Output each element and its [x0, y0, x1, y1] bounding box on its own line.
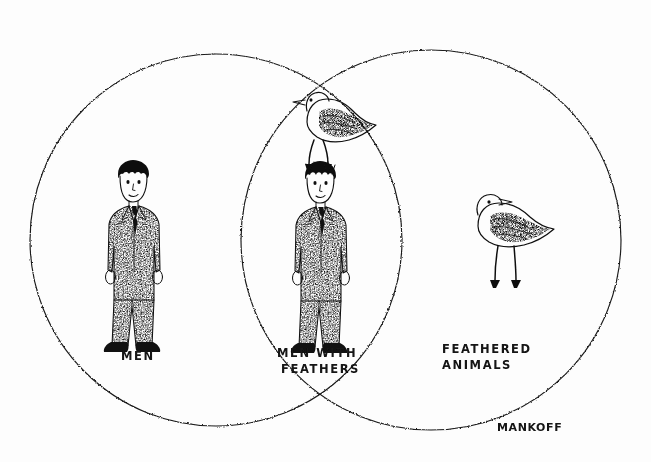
label-men: MEN [121, 349, 155, 363]
label-men-with-feathers-line2: FEATHERS [281, 362, 360, 376]
labels-group: MEN MEN WITH FEATHERS FEATHERED ANIMALS [121, 342, 532, 376]
artist-signature-group: MANKOFF [497, 421, 562, 434]
label-men-with-feathers-line1: MEN WITH [277, 346, 357, 360]
suit-jacket [108, 206, 160, 300]
bird-shorebird [477, 195, 554, 288]
trousers [112, 300, 154, 346]
trousers [299, 301, 341, 347]
cartoon-canvas: MEN MEN WITH FEATHERS FEATHERED ANIMALS … [0, 0, 651, 462]
label-feathered-animals-line1: FEATHERED [442, 342, 532, 356]
bird-on-head [293, 92, 376, 170]
venn-diagram-illustration: MEN MEN WITH FEATHERS FEATHERED ANIMALS … [0, 0, 651, 462]
suit-jacket [295, 207, 347, 301]
figure-man-with-bird [291, 161, 350, 353]
figure-man-in-suit [104, 160, 163, 352]
label-feathered-animals-line2: ANIMALS [442, 358, 512, 372]
artist-signature: MANKOFF [497, 421, 562, 434]
